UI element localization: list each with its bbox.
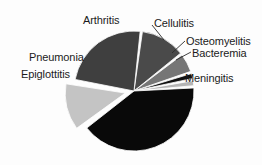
pie-label-meningitis: Meningitis [185, 72, 234, 84]
pie-chart-figure: Arthritis Cellulitis Osteomyelitis Bacte… [0, 0, 262, 165]
pie-label-epiglottitis: Epiglottitis [21, 68, 70, 80]
pie-slice-group [65, 31, 194, 151]
pie-label-arthritis: Arthritis [83, 14, 119, 26]
pie-label-cellulitis: Cellulitis [154, 17, 194, 29]
pie-slice-pneumonia[interactable] [75, 31, 140, 91]
pie-label-pneumonia: Pneumonia [29, 51, 84, 63]
pie-label-bacteremia: Bacteremia [192, 47, 247, 59]
pie-label-osteomyelitis: Osteomyelitis [186, 35, 251, 47]
